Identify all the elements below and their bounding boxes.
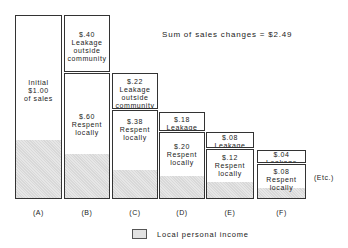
box-label: $.20 Respent locally (160, 143, 204, 167)
column-label-b: (B) (67, 209, 107, 216)
legend-label: Local personal income (157, 230, 249, 239)
local-income-shade (16, 140, 61, 198)
box-label: $.12 Respent locally (207, 154, 253, 178)
local-income-shade (207, 182, 253, 198)
box-f-leakage: $.04 Leakage (257, 150, 306, 163)
box-label: $.38 Respent locally (113, 118, 157, 142)
box-c-leakage: $.22 Leakage outside community (112, 73, 158, 109)
local-income-shade (160, 176, 204, 198)
box-b-leakage: $.40 Leakage outside community (64, 15, 110, 72)
local-income-shade (65, 154, 109, 198)
box-label: $.08 Respent locally (258, 168, 305, 192)
column-label-c: (C) (115, 209, 155, 216)
box-label: $.18 Leakage (160, 116, 204, 131)
box-label: Initial $1.00 of sales (16, 79, 61, 103)
box-a-respent: Initial $1.00 of sales (15, 15, 62, 199)
legend-swatch-icon (132, 229, 147, 239)
box-label: $.22 Leakage outside community (113, 78, 157, 109)
box-e-leakage: $.08 Leakage (206, 132, 254, 148)
box-f-respent: $.08 Respent locally (257, 164, 306, 199)
box-d-leakage: $.18 Leakage (159, 112, 205, 131)
column-label-d: (D) (162, 209, 202, 216)
column-label-a: (A) (19, 209, 59, 216)
box-e-respent: $.12 Respent locally (206, 149, 254, 199)
box-label: $.08 Leakage (207, 134, 253, 148)
local-income-shade (113, 170, 157, 198)
legend: Local personal income (132, 229, 249, 239)
box-c-respent: $.38 Respent locally (112, 110, 158, 199)
column-label-e: (E) (210, 209, 250, 216)
box-b-respent: $.60 Respent locally (64, 73, 110, 199)
etc-label: (Etc.) (314, 174, 334, 181)
box-label: $.04 Leakage (258, 151, 305, 163)
box-label: $.40 Leakage outside community (65, 31, 109, 63)
box-label: $.60 Respent locally (65, 113, 109, 137)
sum-of-sales-changes: Sum of sales changes = $2.49 (162, 30, 292, 39)
column-label-f: (F) (262, 209, 302, 216)
box-d-respent: $.20 Respent locally (159, 132, 205, 199)
